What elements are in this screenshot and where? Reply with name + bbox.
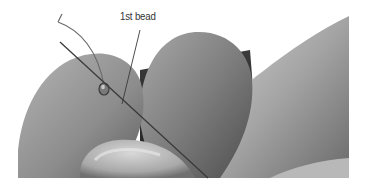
beading-photo-figure: 1st bead (0, 0, 366, 186)
fingers-holding-needle-photo (0, 0, 366, 186)
callout-label-first-bead: 1st bead (120, 10, 156, 22)
